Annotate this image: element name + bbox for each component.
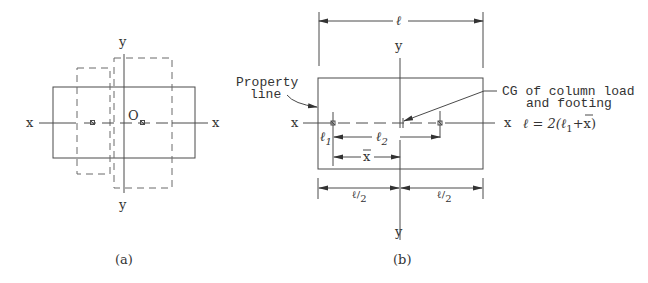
half-left-label: ℓ/2 (352, 189, 367, 204)
cg-label-2: and footing (526, 96, 612, 111)
total-length-label: ℓ (396, 13, 402, 28)
y-axis-label-bottom-a: y (118, 197, 127, 212)
property-line-label-2: line (250, 87, 281, 102)
x-axis-label-right-a: x (212, 115, 220, 130)
caption-b: (b) (393, 252, 411, 267)
panel-b: ℓ y y x x ℓ1 ℓ2 x (236, 12, 635, 267)
y-axis-label-top-b: y (394, 38, 403, 53)
x-axis-label-right-b: x (504, 115, 512, 130)
property-line-leader (287, 95, 317, 107)
y-axis-label-bottom-b: y (394, 224, 403, 239)
panel-a: x x y y O (a) (26, 34, 220, 267)
caption-a: (a) (115, 252, 133, 267)
y-axis-label-top-a: y (118, 34, 127, 49)
half-right-label: ℓ/2 (437, 189, 452, 204)
l2-label: ℓ2 (376, 129, 388, 147)
cg-leader (404, 91, 484, 121)
combined-footing-diagram: x x y y O (a) ℓ y y x x (0, 0, 648, 283)
x-axis-label-left-a: x (26, 115, 34, 130)
length-formula: ℓ = 2(ℓ1+x) (523, 116, 596, 134)
xbar-label: x (363, 149, 371, 164)
x-axis-label-left-b: x (291, 115, 299, 130)
l1-label: ℓ1 (320, 129, 332, 147)
origin-label: O (128, 108, 139, 123)
